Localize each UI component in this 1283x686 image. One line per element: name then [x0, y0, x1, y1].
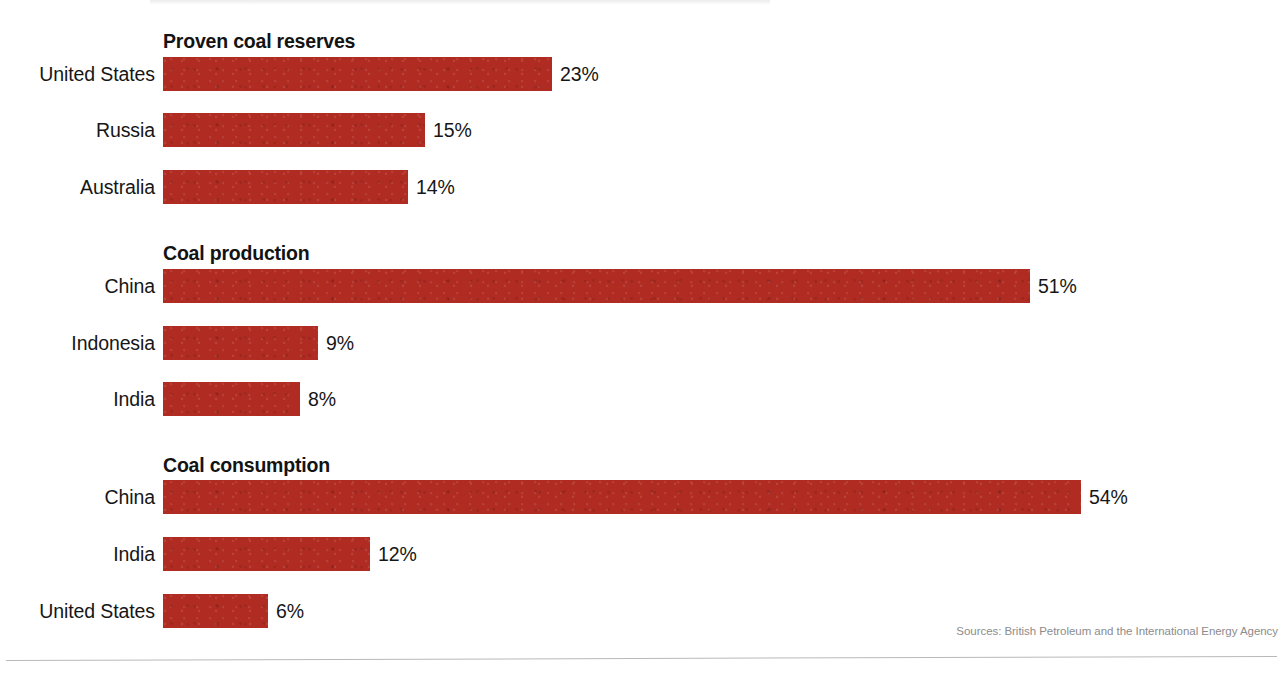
bar-rect: [163, 537, 370, 571]
category-label: United States: [0, 600, 155, 623]
bar-value-label: 14%: [416, 176, 455, 199]
source-note: Sources: British Petroleum and the Inter…: [956, 625, 1278, 637]
bar-row: United States 23%: [0, 57, 1283, 91]
group-heading-coal-consumption: Coal consumption: [163, 454, 330, 477]
group-heading-coal-production: Coal production: [163, 242, 310, 265]
bar-value-label: 9%: [326, 332, 354, 355]
category-label: China: [0, 275, 155, 298]
bar-row: India 8%: [0, 382, 1283, 416]
category-label: India: [0, 388, 155, 411]
category-label: Australia: [0, 176, 155, 199]
bar-row: China 51%: [0, 269, 1283, 303]
bar-rect: [163, 269, 1030, 303]
bar-rect: [163, 113, 425, 147]
bar-value-label: 6%: [276, 600, 304, 623]
category-label: India: [0, 543, 155, 566]
category-label: United States: [0, 63, 155, 86]
category-label: Russia: [0, 119, 155, 142]
bar-value-label: 54%: [1089, 486, 1128, 509]
bar-value-label: 51%: [1038, 275, 1077, 298]
bar-row: India 12%: [0, 537, 1283, 571]
bar-value-label: 12%: [378, 543, 417, 566]
bar-row: Australia 14%: [0, 170, 1283, 204]
coal-statistics-bar-chart: Proven coal reserves United States 23% R…: [0, 0, 1283, 686]
bar-value-label: 23%: [560, 63, 599, 86]
bar-rect: [163, 382, 300, 416]
bar-value-label: 8%: [308, 388, 336, 411]
bar-row: China 54%: [0, 480, 1283, 514]
bar-rect: [163, 594, 268, 628]
bar-rect: [163, 326, 318, 360]
bar-row: Russia 15%: [0, 113, 1283, 147]
footer-divider: [6, 656, 1277, 661]
bar-rect: [163, 57, 552, 91]
bar-value-label: 15%: [433, 119, 472, 142]
bar-row: Indonesia 9%: [0, 326, 1283, 360]
group-heading-proven-coal-reserves: Proven coal reserves: [163, 30, 355, 53]
bar-row: United States 6%: [0, 594, 1283, 628]
bar-rect: [163, 480, 1081, 514]
bar-rect: [163, 170, 408, 204]
category-label: Indonesia: [0, 332, 155, 355]
category-label: China: [0, 486, 155, 509]
cropped-title-artifact: [150, 0, 770, 5]
